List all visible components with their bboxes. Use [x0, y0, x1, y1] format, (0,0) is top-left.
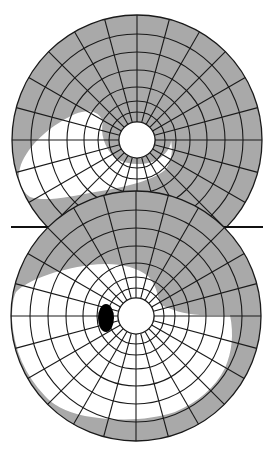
visual-field-diagram	[0, 0, 276, 454]
blind-spot	[98, 304, 114, 332]
fixation-center	[119, 122, 155, 158]
visual-field-figure	[0, 0, 276, 454]
fixation-center	[118, 298, 154, 334]
lower-visual-field-chart	[11, 191, 261, 441]
